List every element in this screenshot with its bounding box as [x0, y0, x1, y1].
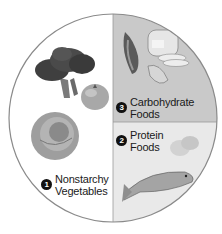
protein-line2: Foods	[130, 141, 163, 153]
vegetables-line1: Nonstarchy	[55, 173, 109, 185]
label-carbohydrate-foods: 3 Carbohydrate Foods	[116, 96, 194, 120]
badge-1: 1	[41, 179, 52, 190]
label-nonstarchy-vegetables: 1 Nonstarchy Vegetables	[41, 173, 109, 197]
badge-3: 3	[116, 102, 127, 113]
vegetables-line2: Vegetables	[55, 185, 109, 197]
protein-line1: Protein	[130, 129, 163, 141]
carbohydrate-line1: Carbohydrate	[130, 96, 194, 108]
label-protein-foods: 2 Protein Foods	[116, 129, 163, 153]
carbohydrate-line2: Foods	[130, 108, 194, 120]
cabbage-icon	[31, 112, 79, 160]
tomato-icon	[81, 84, 109, 110]
badge-2: 2	[116, 135, 127, 146]
